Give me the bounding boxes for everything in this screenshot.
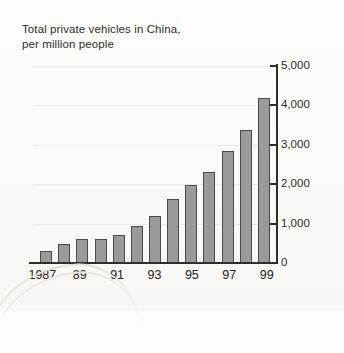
bar-1996 xyxy=(203,172,215,263)
x-axis-tick-label: 1987 xyxy=(28,269,56,282)
plot-area xyxy=(33,66,276,263)
y-tick xyxy=(270,65,277,67)
bar-1992 xyxy=(131,226,143,263)
bar-1991 xyxy=(113,235,125,263)
x-axis-line xyxy=(29,262,278,264)
bar-1990 xyxy=(95,239,107,263)
y-tick xyxy=(270,144,277,146)
x-axis-tick-label: 93 xyxy=(148,269,162,282)
bar-slot xyxy=(128,66,146,263)
y-tick xyxy=(270,183,277,185)
bar-1993 xyxy=(149,216,161,263)
y-axis-tick-label: 1,000 xyxy=(281,218,310,229)
bar-slot xyxy=(255,66,273,263)
bar-1997 xyxy=(222,151,234,263)
bar-slot xyxy=(237,66,255,263)
bar-slot xyxy=(37,66,55,263)
y-tick xyxy=(270,223,277,225)
bar-1988 xyxy=(58,244,70,263)
y-axis-tick-label: 4,000 xyxy=(281,99,310,110)
bar-1995 xyxy=(185,185,197,263)
y-tick xyxy=(270,104,277,106)
y-axis-tick-label: 5,000 xyxy=(281,60,310,71)
x-axis-tick-label: 97 xyxy=(222,269,236,282)
bar-1999 xyxy=(258,98,270,263)
bar-slot xyxy=(200,66,218,263)
chart-title: Total private vehicles in China, per mil… xyxy=(22,22,252,51)
bar-series xyxy=(33,66,276,263)
y-tick xyxy=(270,262,277,264)
bar-1989 xyxy=(76,239,88,263)
y-axis-tick-label: 3,000 xyxy=(281,139,310,150)
y-axis-tick-label: 2,000 xyxy=(281,178,310,189)
x-axis-tick-label: 95 xyxy=(185,269,199,282)
bar-slot xyxy=(164,66,182,263)
bar-slot xyxy=(91,66,109,263)
y-axis-line xyxy=(276,64,278,264)
y-axis-tick-label: 0 xyxy=(281,257,287,268)
x-axis-tick-label: 99 xyxy=(260,269,274,282)
bar-slot xyxy=(73,66,91,263)
x-axis-tick-label: 89 xyxy=(73,269,87,282)
bar-slot xyxy=(219,66,237,263)
bar-slot xyxy=(146,66,164,263)
bar-1998 xyxy=(240,130,252,263)
bar-slot xyxy=(55,66,73,263)
x-axis-tick-label: 91 xyxy=(110,269,124,282)
bar-slot xyxy=(110,66,128,263)
bar-slot xyxy=(182,66,200,263)
bar-1994 xyxy=(167,199,179,263)
